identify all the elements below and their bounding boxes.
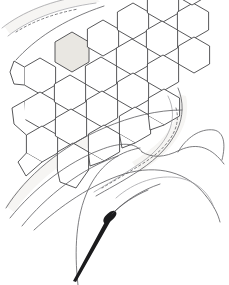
- hex-cell: [86, 91, 117, 127]
- line-art-canvas: [0, 0, 229, 285]
- seta-base-node: [103, 211, 116, 224]
- hex-cell: [176, 0, 207, 5]
- hex-cell: [177, 3, 208, 39]
- vein-curve-7: [206, 196, 220, 222]
- hex-cell: [87, 20, 118, 56]
- vein-curve-9: [116, 177, 214, 208]
- hex-cell: [117, 73, 148, 109]
- hex-cell: [24, 58, 55, 94]
- hex-cell: [146, 21, 177, 57]
- hex-cell-shaded: [55, 32, 89, 72]
- vein-curve-5: [178, 130, 224, 160]
- hex-cell: [147, 0, 178, 22]
- hex-cell: [147, 55, 178, 91]
- seta-group: [73, 184, 160, 282]
- figure-root: Hexagonal cell array with wing veins: [0, 0, 229, 285]
- seta-hair-1: [112, 190, 148, 214]
- hex-cell-partial: [12, 101, 26, 135]
- hex-cell: [24, 92, 55, 128]
- hex-cell: [117, 3, 148, 39]
- hex-cell: [85, 57, 116, 93]
- hex-cell: [178, 37, 209, 73]
- hex-cell: [54, 75, 85, 111]
- seta-hair-2: [114, 184, 160, 212]
- hex-cell: [116, 39, 147, 75]
- hexagon-array: [10, 0, 210, 188]
- hex-cell-partial: [10, 61, 24, 85]
